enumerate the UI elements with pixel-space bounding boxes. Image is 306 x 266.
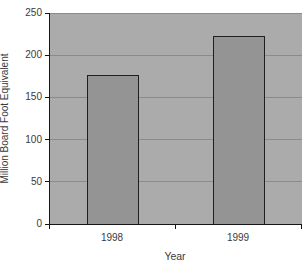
y-axis-tick [45, 55, 49, 56]
y-axis-tick [45, 97, 49, 98]
y-tick-label: 200 [6, 49, 42, 61]
y-tick-label: 50 [6, 176, 42, 188]
x-axis-tick [175, 225, 176, 229]
x-tick-label: 1999 [208, 232, 268, 244]
x-axis-tick [301, 225, 302, 229]
y-tick-label: 250 [6, 7, 42, 19]
gridline [50, 13, 302, 14]
y-axis-title: Million Board Foot Equivalent [0, 9, 12, 229]
x-tick-label: 1998 [82, 232, 142, 244]
bar [87, 75, 139, 224]
y-axis-tick [45, 13, 49, 14]
bar [213, 36, 265, 224]
y-axis-tick [45, 181, 49, 182]
y-axis-tick [45, 139, 49, 140]
y-tick-label: 0 [6, 218, 42, 230]
y-tick-label: 150 [6, 91, 42, 103]
y-tick-label: 100 [6, 134, 42, 146]
x-axis-tick [49, 225, 50, 229]
bar-chart: Million Board Foot Equivalent Year 05010… [0, 0, 306, 266]
x-axis-title: Year [135, 250, 215, 262]
plot-area [49, 13, 302, 225]
